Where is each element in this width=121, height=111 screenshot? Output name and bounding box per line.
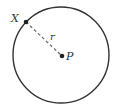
label-p: P <box>65 50 74 63</box>
radius-dashed-line <box>26 22 62 56</box>
circle-diagram: X r P <box>0 0 121 111</box>
point-p-dot <box>60 54 65 59</box>
label-r: r <box>50 31 56 42</box>
label-x: X <box>10 12 20 25</box>
point-x-dot <box>24 20 29 25</box>
